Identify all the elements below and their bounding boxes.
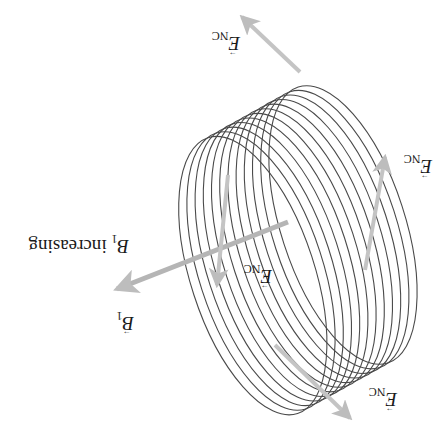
coil-loop bbox=[198, 91, 406, 405]
solenoid-coil bbox=[149, 68, 447, 433]
e-field-arrow-center bbox=[217, 175, 228, 285]
e-field-arrow-top bbox=[242, 17, 300, 72]
diagram-canvas: B1 → B1 increasing ENC → ENC → ENC → ENC… bbox=[0, 0, 447, 445]
b1-increasing-label: B1 increasing bbox=[28, 232, 129, 257]
e-vector-arrow-icon: → bbox=[386, 406, 394, 415]
e-vector-arrow-icon: → bbox=[229, 50, 237, 59]
coil-loop bbox=[174, 105, 382, 419]
e-field-arrow-right bbox=[365, 157, 385, 270]
coil-loop bbox=[182, 100, 390, 414]
e-vector-arrow-icon: → bbox=[421, 173, 429, 182]
induced-electric-field-diagram: B1 → B1 increasing ENC → ENC → ENC → ENC… bbox=[0, 0, 447, 445]
e-vector-arrow-icon: → bbox=[261, 283, 269, 292]
b1-vector-arrow-icon: → bbox=[123, 329, 131, 338]
